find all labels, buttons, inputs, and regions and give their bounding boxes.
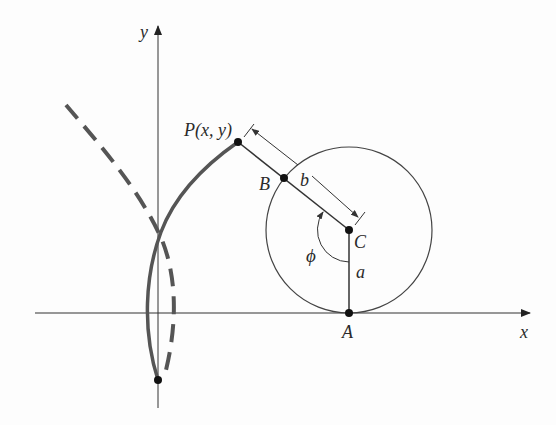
point-b <box>280 174 288 182</box>
label-a: A <box>341 322 354 342</box>
rod-pc <box>238 142 349 230</box>
label-a-length: a <box>356 262 365 282</box>
point-bottom <box>154 376 162 384</box>
angle-arc <box>317 212 349 262</box>
label-c: C <box>354 232 367 252</box>
y-axis-label: y <box>138 22 148 42</box>
diagram-canvas: y x P(x, y) B C A b a ϕ <box>0 0 556 425</box>
tick-p <box>244 124 254 137</box>
dimension-b-2 <box>312 176 358 217</box>
label-p: P(x, y) <box>183 120 232 141</box>
label-b: B <box>259 174 270 194</box>
label-b-length: b <box>300 170 309 190</box>
x-axis-label: x <box>519 322 528 342</box>
dimension-b-1 <box>252 129 298 165</box>
diagram-svg: y x P(x, y) B C A b a ϕ <box>0 0 556 425</box>
tick-c <box>355 212 365 225</box>
point-a <box>345 309 353 317</box>
point-p <box>234 138 242 146</box>
label-phi: ϕ <box>306 245 316 266</box>
point-c <box>345 226 353 234</box>
solid-curve <box>147 142 238 380</box>
